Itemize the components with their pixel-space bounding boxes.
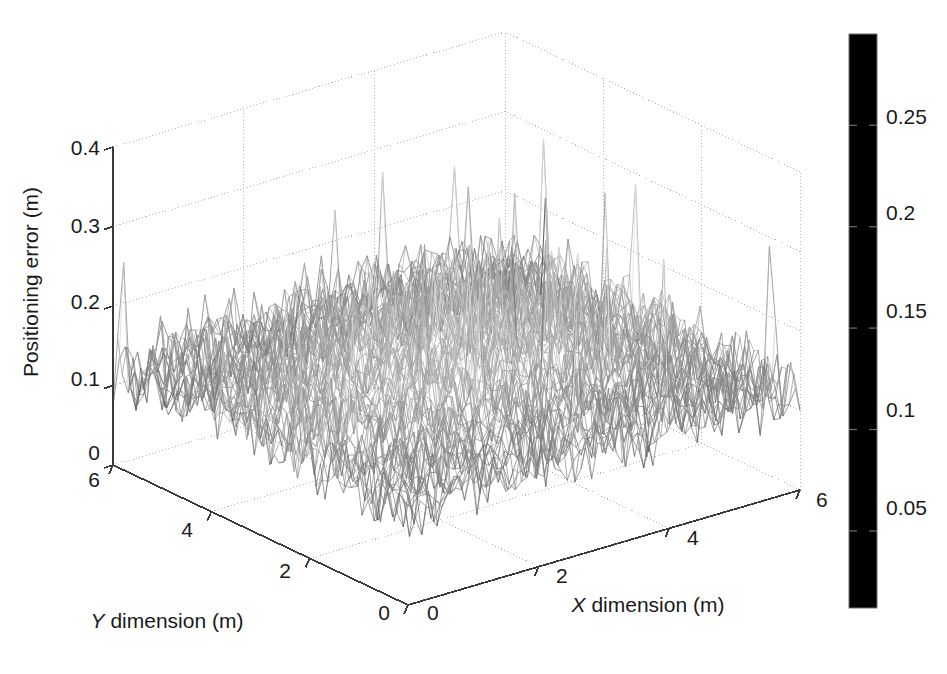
x-tick-label-6: 6 [816,488,828,511]
x-tick-label-2: 2 [556,564,568,587]
colorbar-label-0.15: 0.15 [886,299,927,322]
y-axis-title: Y dimension (m) [91,609,244,632]
x-tick-label-0: 0 [427,601,439,624]
mesh-surface [113,139,800,536]
colorbar-label-0.2: 0.2 [886,201,915,224]
x-tick-label-4: 4 [687,526,699,549]
y-tick-label-4: 4 [181,518,193,541]
figure-root: 0.4 0.3 0.2 0.1 0 6 4 2 0 0 2 4 6 Y dime… [0,0,947,674]
z-tick-label-0.2: 0.2 [71,290,100,313]
x-axis-title: X dimension (m) [571,593,725,616]
colorbar [849,34,877,608]
surface-plot-svg: 0.4 0.3 0.2 0.1 0 6 4 2 0 0 2 4 6 Y dime… [0,0,947,674]
z-tick-label-0.3: 0.3 [71,214,100,237]
y-tick-label-0: 0 [378,601,390,624]
colorbar-label-0.05: 0.05 [886,496,927,519]
y-tick-label-2: 2 [279,559,291,582]
colorbar-label-0.1: 0.1 [886,398,915,421]
z-tick-label-0: 0 [88,441,100,464]
z-tick-label-0.1: 0.1 [71,367,100,390]
z-axis-title: Positioning error (m) [19,187,42,377]
y-tick-label-6: 6 [88,468,100,491]
z-tick-label-0.4: 0.4 [71,136,101,159]
colorbar-label-0.25: 0.25 [886,105,927,128]
